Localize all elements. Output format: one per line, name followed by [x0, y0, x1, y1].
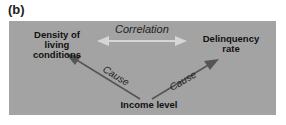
node-line: rate [191, 44, 271, 54]
node-line: conditions [26, 50, 88, 60]
diagram-panel: Cause Cause Correlation Density of livin… [9, 21, 276, 115]
node-density-of-living-conditions: Density of living conditions [26, 30, 88, 60]
correlation-label: Correlation [115, 23, 169, 35]
cause-label-right: Cause [168, 69, 199, 93]
correlation-arrow-icon [97, 36, 187, 46]
figure-label: (b) [8, 2, 25, 17]
node-income-level: Income level [114, 100, 184, 110]
node-delinquency-rate: Delinquency rate [191, 34, 271, 54]
